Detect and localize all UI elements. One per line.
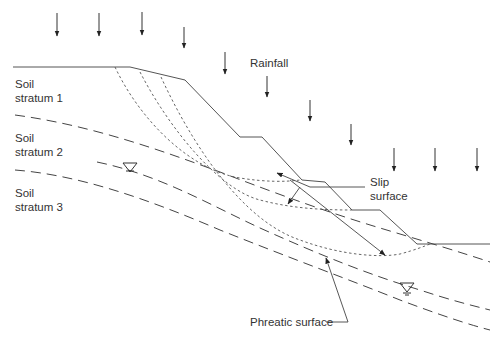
stratum-3-label: Soil stratum 3 (15, 186, 63, 214)
slip-surface-2 (140, 72, 352, 210)
slip-surface-3 (161, 77, 430, 256)
stratum-1-label-line1: Soil (15, 77, 63, 91)
phreatic-surface-label: Phreatic surface (250, 315, 333, 329)
stratum-2-label-line2: stratum 2 (15, 145, 63, 159)
rainfall-label: Rainfall (250, 56, 288, 70)
rainfall-arrows (57, 12, 477, 171)
stratum-3-label-line1: Soil (15, 186, 63, 200)
stratum-2-label-line1: Soil (15, 131, 63, 145)
water-table-symbol-left (123, 163, 137, 172)
slip-surface-label: Slip surface (370, 175, 408, 203)
slip-surface-1 (115, 67, 300, 181)
stratum-boundary-2-3 (15, 170, 490, 330)
stratum-1-label-line2: stratum 1 (15, 91, 63, 105)
phreatic-leader (326, 258, 348, 322)
slip-surface-label-line1: Slip (370, 175, 408, 189)
slope-diagram: Soil stratum 1 Soil stratum 2 Soil strat… (0, 0, 502, 353)
stratum-3-label-line2: stratum 3 (15, 200, 63, 214)
diagram-canvas (0, 0, 502, 353)
slip-surface-label-line2: surface (370, 189, 408, 203)
stratum-1-label: Soil stratum 1 (15, 77, 63, 105)
stratum-2-label: Soil stratum 2 (15, 131, 63, 159)
ground-surface-line (13, 67, 490, 244)
phreatic-surface-line (97, 162, 490, 310)
